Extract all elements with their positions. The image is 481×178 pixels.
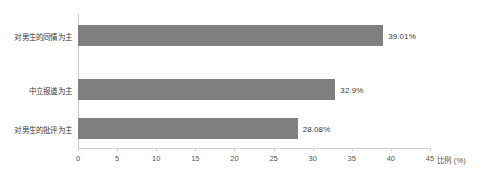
x-axis-tick-label: 5	[115, 154, 119, 163]
value-axis-line	[78, 148, 431, 149]
x-axis-tick-label: 15	[191, 154, 199, 163]
x-axis-tick-label: 40	[387, 154, 395, 163]
x-axis-tick-label: 30	[308, 154, 316, 163]
x-axis-tick	[234, 148, 235, 151]
x-axis-tick-label: 20	[230, 154, 238, 163]
x-axis-tick	[117, 148, 118, 151]
x-axis-title: 比例 (%)	[437, 154, 466, 165]
bar-value-label-1: 32.9%	[340, 85, 363, 94]
x-axis-tick	[352, 148, 353, 151]
x-axis-tick	[78, 148, 79, 151]
bar-row: 28.08%	[0, 118, 481, 139]
bar-row: 39.01%	[0, 25, 481, 46]
x-axis-tick-label: 25	[269, 154, 277, 163]
x-axis-tick-label: 35	[348, 154, 356, 163]
x-axis-tick	[313, 148, 314, 151]
bar-criticism[interactable]	[78, 118, 298, 139]
bar-neutral[interactable]	[78, 79, 335, 100]
x-axis-tick	[430, 148, 431, 151]
bar-chart: 对男生的同情为主 中立报道为主 对男生的批评为主 39.01% 32.9% 28…	[0, 0, 481, 178]
x-axis-tick	[391, 148, 392, 151]
x-axis-tick-label: 10	[152, 154, 160, 163]
x-axis-tick-label: 0	[76, 154, 80, 163]
bar-row: 32.9%	[0, 79, 481, 100]
bar-sympathy[interactable]	[78, 25, 383, 46]
x-axis-tick	[274, 148, 275, 151]
x-axis-tick-label: 45	[426, 154, 434, 163]
bar-value-label-0: 39.01%	[388, 31, 416, 40]
x-axis-tick	[156, 148, 157, 151]
bar-value-label-2: 28.08%	[303, 124, 331, 133]
x-axis-tick	[195, 148, 196, 151]
